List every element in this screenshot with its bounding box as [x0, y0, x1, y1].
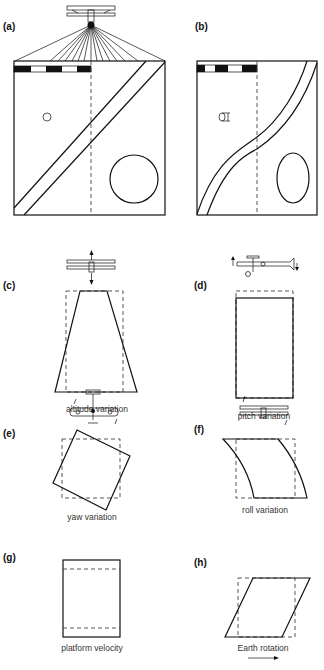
- panel-label-b: (b): [195, 21, 208, 32]
- panel-label-f: (f): [194, 424, 204, 435]
- panel-c: (c) altitude variation: [3, 250, 137, 414]
- panel-label-a: (a): [3, 21, 15, 32]
- panel-label-e: (e): [3, 428, 15, 439]
- biplane-side-icon: [231, 256, 299, 277]
- panel-d: (d) pitch variation: [194, 256, 299, 421]
- distorted-circle-icon: [219, 113, 230, 121]
- panel-b: (b): [195, 21, 317, 215]
- panel-label-d: (d): [194, 280, 207, 291]
- panel-g: (g) platform velocity: [3, 552, 123, 653]
- panel-h: (h) Earth rotation: [194, 557, 310, 660]
- scan-lines: [15, 25, 165, 61]
- caption-c: altitude variation: [66, 404, 128, 414]
- caption-f: roll variation: [242, 505, 288, 515]
- caption-g: platform velocity: [61, 643, 123, 653]
- panel-label-h: (h): [194, 557, 207, 568]
- caption-e: yaw variation: [67, 512, 117, 522]
- biplane-icon: [67, 250, 115, 285]
- right-arrow-icon: [248, 656, 279, 660]
- panel-label-c: (c): [3, 280, 15, 291]
- panel-label-g: (g): [3, 552, 16, 563]
- caption-h: Earth rotation: [237, 643, 288, 653]
- distortion-diagram: (a): [0, 0, 324, 670]
- caption-d: pitch variation: [238, 411, 291, 421]
- panel-a: (a): [3, 6, 165, 215]
